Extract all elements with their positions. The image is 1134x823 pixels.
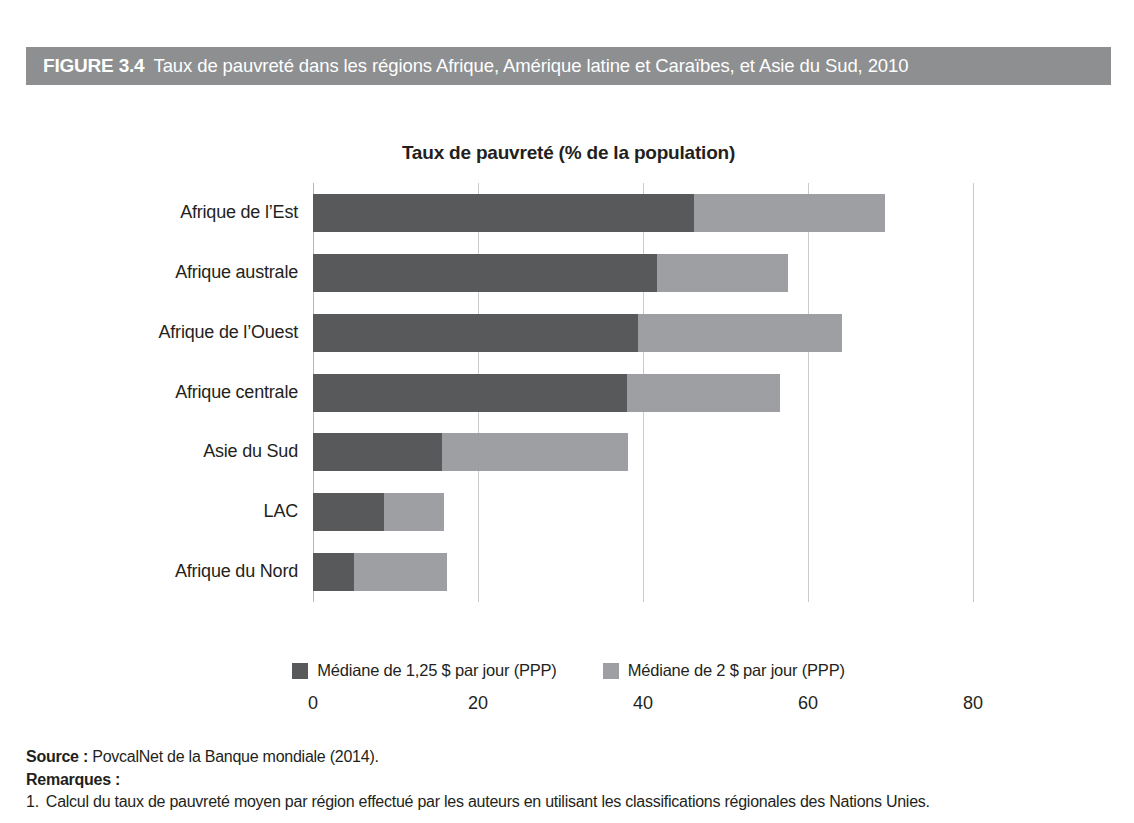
x-axis-tick-60: 60 (788, 693, 828, 714)
source-label: Source : (26, 748, 88, 765)
bar-row (313, 194, 885, 232)
y-axis-label: LAC (58, 501, 298, 522)
y-axis-label: Afrique de l’Est (58, 202, 298, 223)
bar-segment-series-2 (694, 194, 885, 232)
x-axis-tick-80: 80 (953, 693, 993, 714)
remarks-label: Remarques : (26, 771, 120, 788)
y-axis-category-labels: Afrique de l’EstAfrique australeAfrique … (53, 183, 298, 602)
legend-swatch-icon (292, 663, 308, 679)
bar-segment-series-1 (313, 314, 638, 352)
bar-row (313, 314, 842, 352)
bar-row (313, 553, 447, 591)
footnote-text: Calcul du taux de pauvreté moyen par rég… (46, 791, 930, 814)
x-axis-tick-40: 40 (623, 693, 663, 714)
bar-segment-series-2 (627, 374, 780, 412)
bar-segment-series-1 (313, 433, 442, 471)
bar-segment-series-1 (313, 254, 657, 292)
bar-segment-series-2 (657, 254, 788, 292)
chart-legend: Médiane de 1,25 $ par jour (PPP)Médiane … (26, 661, 1111, 680)
footnote-1: 1. Calcul du taux de pauvreté moyen par … (26, 791, 1116, 814)
gridline-80 (973, 183, 974, 602)
bar-row (313, 254, 788, 292)
bar-segment-series-1 (313, 374, 627, 412)
x-axis-tick-labels: 020406080 (313, 693, 973, 719)
y-axis-label: Afrique australe (58, 262, 298, 283)
y-axis-label: Afrique du Nord (58, 561, 298, 582)
y-axis-label: Asie du Sud (58, 441, 298, 462)
bar-segment-series-1 (313, 493, 384, 531)
chart-title: Taux de pauvreté (% de la population) (26, 142, 1111, 164)
remarks-line: Remarques : (26, 769, 1116, 792)
bar-segment-series-2 (638, 314, 842, 352)
legend-item-series-1[interactable]: Médiane de 1,25 $ par jour (PPP) (292, 661, 556, 680)
footnote-number: 1. (26, 791, 39, 814)
bar-row (313, 493, 444, 531)
plot-area (313, 183, 973, 602)
figure-footer: Source : PovcalNet de la Banque mondiale… (26, 746, 1116, 814)
bar-segment-series-1 (313, 194, 694, 232)
legend-label: Médiane de 1,25 $ par jour (PPP) (317, 661, 556, 680)
bar-row (313, 374, 780, 412)
figure-number: FIGURE 3.4 (43, 55, 144, 77)
source-line: Source : PovcalNet de la Banque mondiale… (26, 746, 1116, 769)
figure-title: Taux de pauvreté dans les régions Afriqu… (153, 55, 908, 77)
x-axis-tick-0: 0 (293, 693, 333, 714)
bar-segment-series-2 (384, 493, 444, 531)
legend-label: Médiane de 2 $ par jour (PPP) (628, 661, 845, 680)
figure-header-bar: FIGURE 3.4 Taux de pauvreté dans les rég… (26, 47, 1111, 85)
bar-segment-series-1 (313, 553, 354, 591)
gridline-60 (808, 183, 809, 602)
source-text: PovcalNet de la Banque mondiale (2014). (92, 748, 378, 765)
bar-row (313, 433, 628, 471)
legend-swatch-icon (603, 663, 619, 679)
y-axis-label: Afrique de l’Ouest (58, 322, 298, 343)
y-axis-label: Afrique centrale (58, 382, 298, 403)
bar-segment-series-2 (442, 433, 628, 471)
legend-item-series-2[interactable]: Médiane de 2 $ par jour (PPP) (603, 661, 845, 680)
bar-segment-series-2 (354, 553, 446, 591)
chart-container: Taux de pauvreté (% de la population) Af… (26, 85, 1111, 710)
x-axis-tick-20: 20 (458, 693, 498, 714)
